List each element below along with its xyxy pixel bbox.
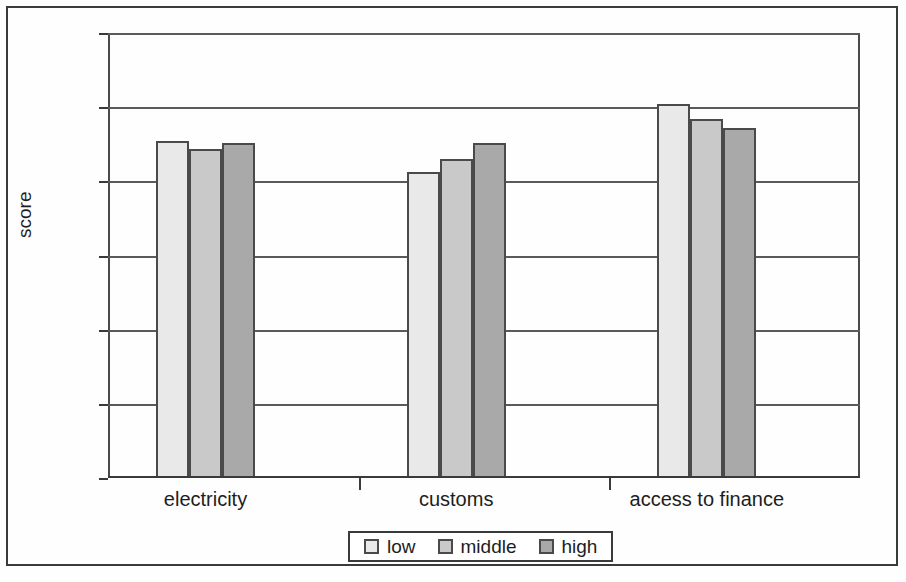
legend-item-middle: middle <box>438 536 517 558</box>
y-tick-mark <box>99 33 108 35</box>
category-separator-tick <box>359 478 361 490</box>
bar-high-electricity <box>222 143 255 478</box>
chart-legend: lowmiddlehigh <box>348 531 613 562</box>
y-tick-mark <box>99 330 108 332</box>
gridline <box>108 107 860 109</box>
y-axis-title: score <box>14 192 36 238</box>
legend-label: low <box>387 536 416 558</box>
legend-item-low: low <box>364 536 416 558</box>
y-tick-mark <box>99 404 108 406</box>
gridline <box>108 33 860 35</box>
bar-middle-customs <box>440 159 473 478</box>
bar-middle-electricity <box>189 149 222 478</box>
x-category-label: access to finance <box>630 488 785 511</box>
y-tick-mark <box>99 478 108 480</box>
bar-low-access-to-finance <box>657 104 690 478</box>
legend-label: high <box>562 536 598 558</box>
bar-low-electricity <box>156 141 189 478</box>
y-tick-mark <box>99 256 108 258</box>
legend-item-high: high <box>539 536 598 558</box>
plot-area: 32.521.510.50 <box>108 33 860 478</box>
y-tick-mark <box>99 107 108 109</box>
bar-middle-access-to-finance <box>690 119 723 478</box>
legend-swatch-icon <box>539 539 554 554</box>
x-category-label: electricity <box>164 488 247 511</box>
bar-high-customs <box>473 143 506 478</box>
bar-high-access-to-finance <box>723 128 756 478</box>
legend-label: middle <box>461 536 517 558</box>
bar-chart-figure: score 32.521.510.50 electricitycustomsac… <box>0 0 906 582</box>
legend-swatch-icon <box>438 539 453 554</box>
category-separator-tick <box>609 478 611 490</box>
x-axis-line <box>108 476 860 478</box>
bar-low-customs <box>407 172 440 478</box>
y-tick-mark <box>99 181 108 183</box>
x-category-label: customs <box>419 488 493 511</box>
legend-swatch-icon <box>364 539 379 554</box>
